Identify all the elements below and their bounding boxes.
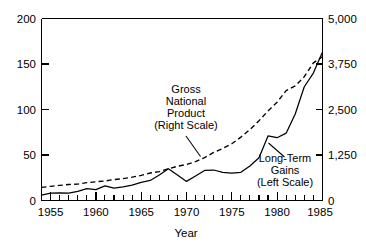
y-right-tick-3750: 3,750 (328, 58, 357, 70)
x-tick-1955: 1955 (38, 206, 64, 218)
x-axis-major-ticks (51, 192, 323, 201)
y-right-tick-1250: 1,250 (328, 149, 357, 161)
gains-annotation-line3: (Left Scale) (257, 176, 313, 188)
y-left-tick-100: 100 (17, 104, 36, 116)
y-axis-left-labels: 200 150 100 50 0 (17, 13, 36, 207)
line-chart: 200 150 100 50 0 5,000 3,750 2,500 1,250… (0, 0, 366, 247)
gains-annotation: Long-Term Gains (Left Scale) (257, 152, 313, 188)
x-tick-1970: 1970 (174, 206, 200, 218)
x-tick-1960: 1960 (83, 206, 109, 218)
gnp-annotation-line3: Product (167, 107, 205, 119)
x-tick-1985: 1985 (307, 206, 333, 218)
y-axis-right-ticks (316, 64, 323, 155)
x-axis-title: Year (174, 227, 197, 239)
y-axis-right-labels: 5,000 3,750 2,500 1,250 0 (328, 13, 357, 207)
x-tick-1965: 1965 (128, 206, 154, 218)
gnp-annotation-line4: (Right Scale) (154, 119, 218, 131)
y-right-tick-2500: 2,500 (328, 104, 357, 116)
x-axis-labels: 1955 1960 1965 1970 1975 1980 1985 (38, 206, 333, 218)
x-tick-1975: 1975 (219, 206, 245, 218)
chart-container: 200 150 100 50 0 5,000 3,750 2,500 1,250… (0, 0, 366, 247)
y-axis-left-ticks (42, 64, 49, 155)
gnp-annotation-line1: Gross (171, 83, 201, 95)
gains-annotation-line1: Long-Term (259, 152, 312, 164)
y-left-tick-50: 50 (23, 149, 36, 161)
gains-annotation-line2: Gains (271, 164, 300, 176)
gnp-annotation-line2: National (166, 95, 206, 107)
y-left-tick-150: 150 (17, 58, 36, 70)
x-axis-minor-ticks (42, 195, 323, 201)
gnp-annotation: Gross National Product (Right Scale) (154, 83, 218, 131)
y-right-tick-5000: 5,000 (328, 13, 357, 25)
gnp-annotation-leader (186, 136, 201, 157)
y-left-tick-200: 200 (17, 13, 36, 25)
y-left-tick-0: 0 (30, 195, 36, 207)
y-right-tick-0: 0 (328, 195, 334, 207)
x-tick-1980: 1980 (264, 206, 290, 218)
